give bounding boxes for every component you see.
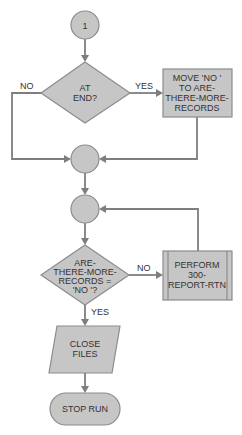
arrow-down-icon [81,238,89,245]
arrow-left-icon [99,155,106,163]
edge-label-no: NO [137,263,151,273]
predefined-process-perform-report: PERFORM 300- REPORT-RTN [163,251,232,300]
connector-node-2 [71,145,99,173]
arrow-left-icon [99,205,106,213]
io-text: FILES [72,349,97,359]
arrow-down-icon [81,386,89,393]
process-text: 300- [188,270,206,280]
decision-text: 'NO '? [73,285,97,295]
process-text: TO ARE- [179,83,215,93]
edge-label-no: NO [20,81,34,91]
arrow-down-icon [81,55,89,62]
decision-text: END? [73,93,97,103]
process-text: RECORDS [174,103,219,113]
io-text: CLOSE [70,339,101,349]
arrow-down-icon [81,319,89,326]
decision-at-end: AT END? [41,62,130,123]
arrow-right-icon [156,271,163,279]
flowchart: NO YES NO YES 1 AT END? MOVE 'NO ' TO AR… [0,0,242,435]
edge-label-yes: YES [135,81,153,91]
connector-label: 1 [82,21,87,31]
arrow-right-icon [156,89,163,97]
decision-text: AT [80,83,91,93]
process-text: REPORT-RTN [168,280,226,290]
connector-node-1: 1 [71,11,99,39]
connector-node-3 [71,195,99,223]
arrow-down-icon [81,188,89,195]
process-text: THERE-MORE- [165,93,229,103]
io-close-files: CLOSE FILES [49,326,120,373]
process-text: PERFORM [175,260,220,270]
edge-label-yes: YES [91,307,109,317]
decision-more-records: ARE- THERE-MORE- RECORDS = 'NO '? [41,245,129,305]
edge-move-to-connector2 [105,117,197,159]
process-text: MOVE 'NO ' [173,73,222,83]
terminal-stop-run: STOP RUN [50,393,120,425]
edge-perform-loop-back [105,209,198,251]
process-move-no: MOVE 'NO ' TO ARE- THERE-MORE- RECORDS [163,69,232,117]
arrow-right-icon [64,155,71,163]
terminal-text: STOP RUN [62,404,108,414]
